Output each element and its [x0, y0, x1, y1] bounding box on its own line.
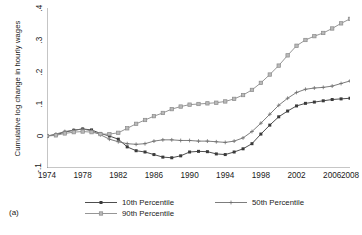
series-10th-percentile — [47, 97, 350, 160]
legend-label: 50th Percentile — [252, 198, 304, 207]
y-tick-label: .2 — [37, 68, 44, 76]
filled-square-marker — [268, 124, 271, 127]
x-tick-label: 1990 — [180, 172, 198, 180]
open-square-marker — [152, 114, 155, 117]
plus-marker — [188, 139, 192, 143]
open-square-marker — [339, 22, 342, 25]
filled-square-marker — [331, 98, 334, 101]
panel-label: (a) — [9, 208, 19, 217]
filled-square-marker — [313, 101, 316, 104]
legend-row: 90th Percentile — [84, 209, 334, 218]
plus-marker — [143, 142, 147, 146]
open-square-marker — [99, 132, 102, 135]
filled-square-marker — [286, 110, 289, 113]
plot-area: -.10.1.2.3.4 197419781982198619901994199… — [47, 8, 350, 168]
open-square-marker — [286, 54, 289, 57]
open-square-marker — [206, 102, 209, 105]
x-tick-label: 1986 — [145, 172, 163, 180]
filled-square-marker — [233, 151, 236, 154]
legend-swatch — [84, 209, 118, 218]
series-line — [47, 19, 350, 136]
plus-marker — [330, 84, 334, 88]
series-90th-percentile — [47, 17, 350, 138]
open-square-marker — [277, 64, 280, 67]
open-square-marker — [161, 111, 164, 114]
y-tick-label: .4 — [37, 4, 44, 12]
y-axis-label: Cumulative log change in hourly wages — [13, 9, 22, 169]
open-square-marker — [232, 97, 235, 100]
open-square-marker — [99, 212, 102, 215]
filled-square-marker — [170, 156, 173, 159]
x-tick-label: 1978 — [73, 172, 91, 180]
plus-marker — [229, 201, 233, 205]
chart-canvas — [47, 8, 350, 172]
filled-square-marker — [135, 149, 138, 152]
filled-square-marker — [277, 115, 280, 118]
plus-marker — [348, 79, 350, 83]
plus-marker — [312, 86, 316, 90]
x-tick-label: 1982 — [109, 172, 127, 180]
open-square-marker — [304, 38, 307, 41]
filled-square-marker — [304, 102, 307, 105]
y-tick-label: 0 — [39, 132, 44, 140]
legend-item-50th-percentile[interactable]: 50th Percentile — [214, 198, 304, 207]
series-plot — [47, 8, 350, 168]
open-square-marker — [72, 130, 75, 133]
open-square-marker — [348, 17, 350, 20]
open-square-marker — [188, 103, 191, 106]
legend-item-90th-percentile[interactable]: 90th Percentile — [84, 209, 174, 218]
legend-item-10th-percentile[interactable]: 10th Percentile — [84, 198, 214, 207]
open-square-marker — [143, 118, 146, 121]
figure-panel-a: Cumulative log change in hourly wages -.… — [0, 0, 362, 235]
plus-marker — [321, 85, 325, 89]
filled-square-marker — [100, 201, 103, 204]
filled-square-marker — [215, 152, 218, 155]
x-tick-label: 1998 — [252, 172, 270, 180]
open-square-marker — [47, 134, 49, 137]
plus-marker — [197, 139, 201, 143]
plus-marker — [107, 137, 111, 141]
open-square-marker — [134, 122, 137, 125]
open-square-marker — [179, 105, 182, 108]
plus-marker — [304, 87, 308, 91]
filled-square-marker — [340, 97, 343, 100]
open-square-marker — [108, 132, 111, 135]
plus-marker — [339, 82, 343, 86]
open-square-marker — [268, 73, 271, 76]
chart-legend: 10th Percentile50th Percentile90th Perce… — [84, 198, 334, 220]
open-square-marker — [295, 44, 298, 47]
legend-label: 90th Percentile — [122, 209, 174, 218]
open-square-marker — [259, 81, 262, 84]
open-square-marker — [170, 107, 173, 110]
x-tick-label: 2008 — [341, 172, 359, 180]
filled-square-marker — [224, 153, 227, 156]
filled-square-marker — [161, 156, 164, 159]
open-square-marker — [330, 27, 333, 30]
open-square-marker — [322, 31, 325, 34]
filled-square-marker — [144, 151, 147, 154]
filled-square-marker — [152, 153, 155, 156]
filled-square-marker — [206, 150, 209, 153]
filled-square-marker — [179, 154, 182, 157]
series-line — [47, 81, 350, 144]
plus-marker — [179, 139, 183, 143]
open-square-marker — [215, 101, 218, 104]
x-tick-label: 2002 — [287, 172, 305, 180]
open-square-marker — [250, 88, 253, 91]
filled-square-marker — [242, 147, 245, 150]
legend-swatch — [84, 198, 118, 207]
filled-square-marker — [126, 145, 129, 148]
filled-square-marker — [188, 151, 191, 154]
plus-marker — [134, 142, 138, 146]
filled-square-marker — [322, 99, 325, 102]
filled-square-marker — [250, 142, 253, 145]
open-square-marker — [117, 131, 120, 134]
plus-marker — [170, 138, 174, 142]
plus-marker — [223, 141, 227, 145]
open-square-marker — [54, 134, 57, 137]
open-square-marker — [126, 127, 129, 130]
y-tick-label: .1 — [37, 100, 44, 108]
plus-marker — [214, 140, 218, 144]
plus-marker — [125, 142, 129, 146]
plus-marker — [161, 138, 165, 142]
